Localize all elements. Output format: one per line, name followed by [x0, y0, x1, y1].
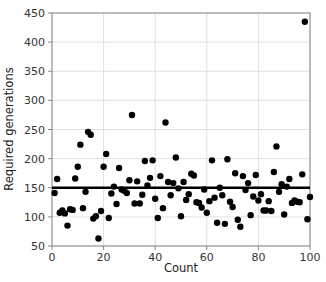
data-point — [304, 216, 310, 222]
x-tick-label: 40 — [148, 251, 162, 264]
data-point — [302, 19, 308, 25]
x-axis-title: Count — [164, 261, 199, 275]
data-point — [155, 215, 161, 221]
data-point — [253, 172, 259, 178]
y-tick-label: 400 — [24, 36, 45, 49]
data-point — [157, 173, 163, 179]
data-point — [167, 192, 173, 198]
data-point — [162, 119, 168, 125]
x-tick-label: 100 — [300, 251, 321, 264]
data-point — [75, 164, 81, 170]
data-point — [80, 205, 86, 211]
data-point — [286, 176, 292, 182]
data-point — [139, 192, 145, 198]
data-point — [268, 208, 274, 214]
data-point — [178, 213, 184, 219]
data-point — [170, 180, 176, 186]
data-point — [72, 175, 78, 181]
data-point — [250, 193, 256, 199]
data-point — [204, 210, 210, 216]
data-point — [103, 151, 109, 157]
data-point — [129, 112, 135, 118]
y-tick-label: 450 — [24, 7, 45, 20]
data-point — [106, 215, 112, 221]
data-point — [258, 191, 264, 197]
data-point — [137, 200, 143, 206]
data-point — [62, 210, 68, 216]
data-point — [95, 235, 101, 241]
y-tick-label: 50 — [31, 240, 45, 253]
y-tick-label: 150 — [24, 182, 45, 195]
data-point — [98, 208, 104, 214]
data-point — [126, 177, 132, 183]
data-point — [88, 132, 94, 138]
y-tick-label: 100 — [24, 211, 45, 224]
data-point — [219, 192, 225, 198]
data-point — [183, 197, 189, 203]
data-point — [147, 175, 153, 181]
x-tick-label: 20 — [97, 251, 111, 264]
data-point — [229, 204, 235, 210]
data-point — [113, 201, 119, 207]
data-point — [180, 179, 186, 185]
x-tick-label: 60 — [200, 251, 214, 264]
y-tick-label: 300 — [24, 94, 45, 107]
data-point — [307, 194, 313, 200]
chart-figure: 50100150200250300350400450 020406080100 … — [0, 0, 326, 282]
data-point — [124, 190, 130, 196]
data-point — [108, 190, 114, 196]
data-point — [222, 221, 228, 227]
data-point — [281, 211, 287, 217]
data-point — [173, 154, 179, 160]
data-point — [77, 141, 83, 147]
data-point — [134, 178, 140, 184]
data-point — [276, 189, 282, 195]
data-point — [116, 165, 122, 171]
data-point — [152, 196, 158, 202]
y-tick-label: 350 — [24, 65, 45, 78]
data-point — [247, 212, 253, 218]
x-tick-label: 80 — [251, 251, 265, 264]
data-point — [224, 156, 230, 162]
data-point — [299, 171, 305, 177]
data-point — [271, 169, 277, 175]
data-point — [273, 143, 279, 149]
data-point — [160, 205, 166, 211]
data-point — [100, 164, 106, 170]
data-point — [237, 224, 243, 230]
x-tick-label: 0 — [49, 251, 56, 264]
data-point — [266, 198, 272, 204]
data-point — [240, 173, 246, 179]
scatter-plot: 50100150200250300350400450 020406080100 … — [0, 0, 326, 282]
data-point — [142, 158, 148, 164]
data-point — [69, 207, 75, 213]
data-point — [149, 157, 155, 163]
data-point — [209, 157, 215, 163]
y-tick-label: 200 — [24, 153, 45, 166]
data-point — [93, 213, 99, 219]
data-point — [214, 220, 220, 226]
data-point — [198, 204, 204, 210]
y-axis-title: Required generations — [2, 67, 16, 190]
data-point — [191, 172, 197, 178]
data-point — [255, 197, 261, 203]
data-point — [211, 194, 217, 200]
data-point — [82, 189, 88, 195]
data-point — [54, 176, 60, 182]
data-point — [186, 191, 192, 197]
data-point — [64, 222, 70, 228]
y-tick-label: 250 — [24, 124, 45, 137]
data-point — [232, 170, 238, 176]
data-point — [245, 180, 251, 186]
data-point — [235, 217, 241, 223]
data-point — [51, 190, 57, 196]
data-point — [296, 199, 302, 205]
